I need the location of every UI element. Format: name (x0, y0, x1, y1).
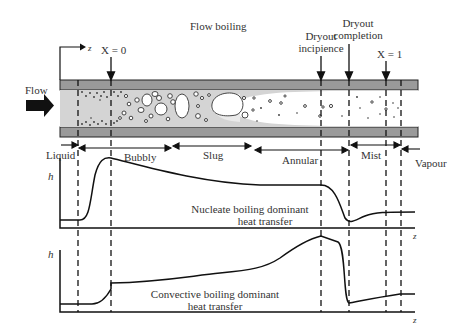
flow-arrow-icon (26, 94, 54, 117)
regime-annular: Annular (282, 154, 318, 166)
regime-mist: Mist (361, 149, 381, 161)
regime-bubbly: Bubbly (124, 151, 156, 163)
graph1-caption: Nucleate boiling dominant heat transfer (150, 203, 350, 227)
graph1-x-label: z (413, 230, 417, 242)
graph2-caption: Convective boiling dominant heat transfe… (115, 288, 315, 312)
graph2-caption-line2: heat transfer (115, 300, 315, 312)
flow-label: Flow (25, 84, 48, 96)
diagram-title: Flow boiling (190, 20, 247, 32)
regime-liquid: Liquid (46, 149, 75, 161)
dryout-completion-label: Dryout completion (328, 17, 388, 41)
quality-x1-label: X = 1 (377, 48, 402, 60)
regime-slug: Slug (203, 149, 223, 161)
graph2-caption-line1: Convective boiling dominant (115, 288, 315, 300)
z-axis-arrow-icon (60, 44, 86, 81)
dryout-incipience-line2: incipience (293, 42, 349, 54)
graph1-caption-line1: Nucleate boiling dominant (150, 203, 350, 215)
regime-vapour: Vapour (415, 157, 447, 169)
graph2-y-label: h (48, 248, 54, 260)
graph2-x-label: z (413, 314, 417, 326)
z-axis-label: z (88, 42, 92, 54)
graph1-y-label: h (48, 170, 54, 182)
graph1-caption-line2: heat transfer (150, 215, 350, 227)
dryout-completion-line1: Dryout (328, 17, 388, 29)
dryout-completion-line2: completion (328, 29, 388, 41)
quality-x0-label: X = 0 (101, 44, 126, 56)
